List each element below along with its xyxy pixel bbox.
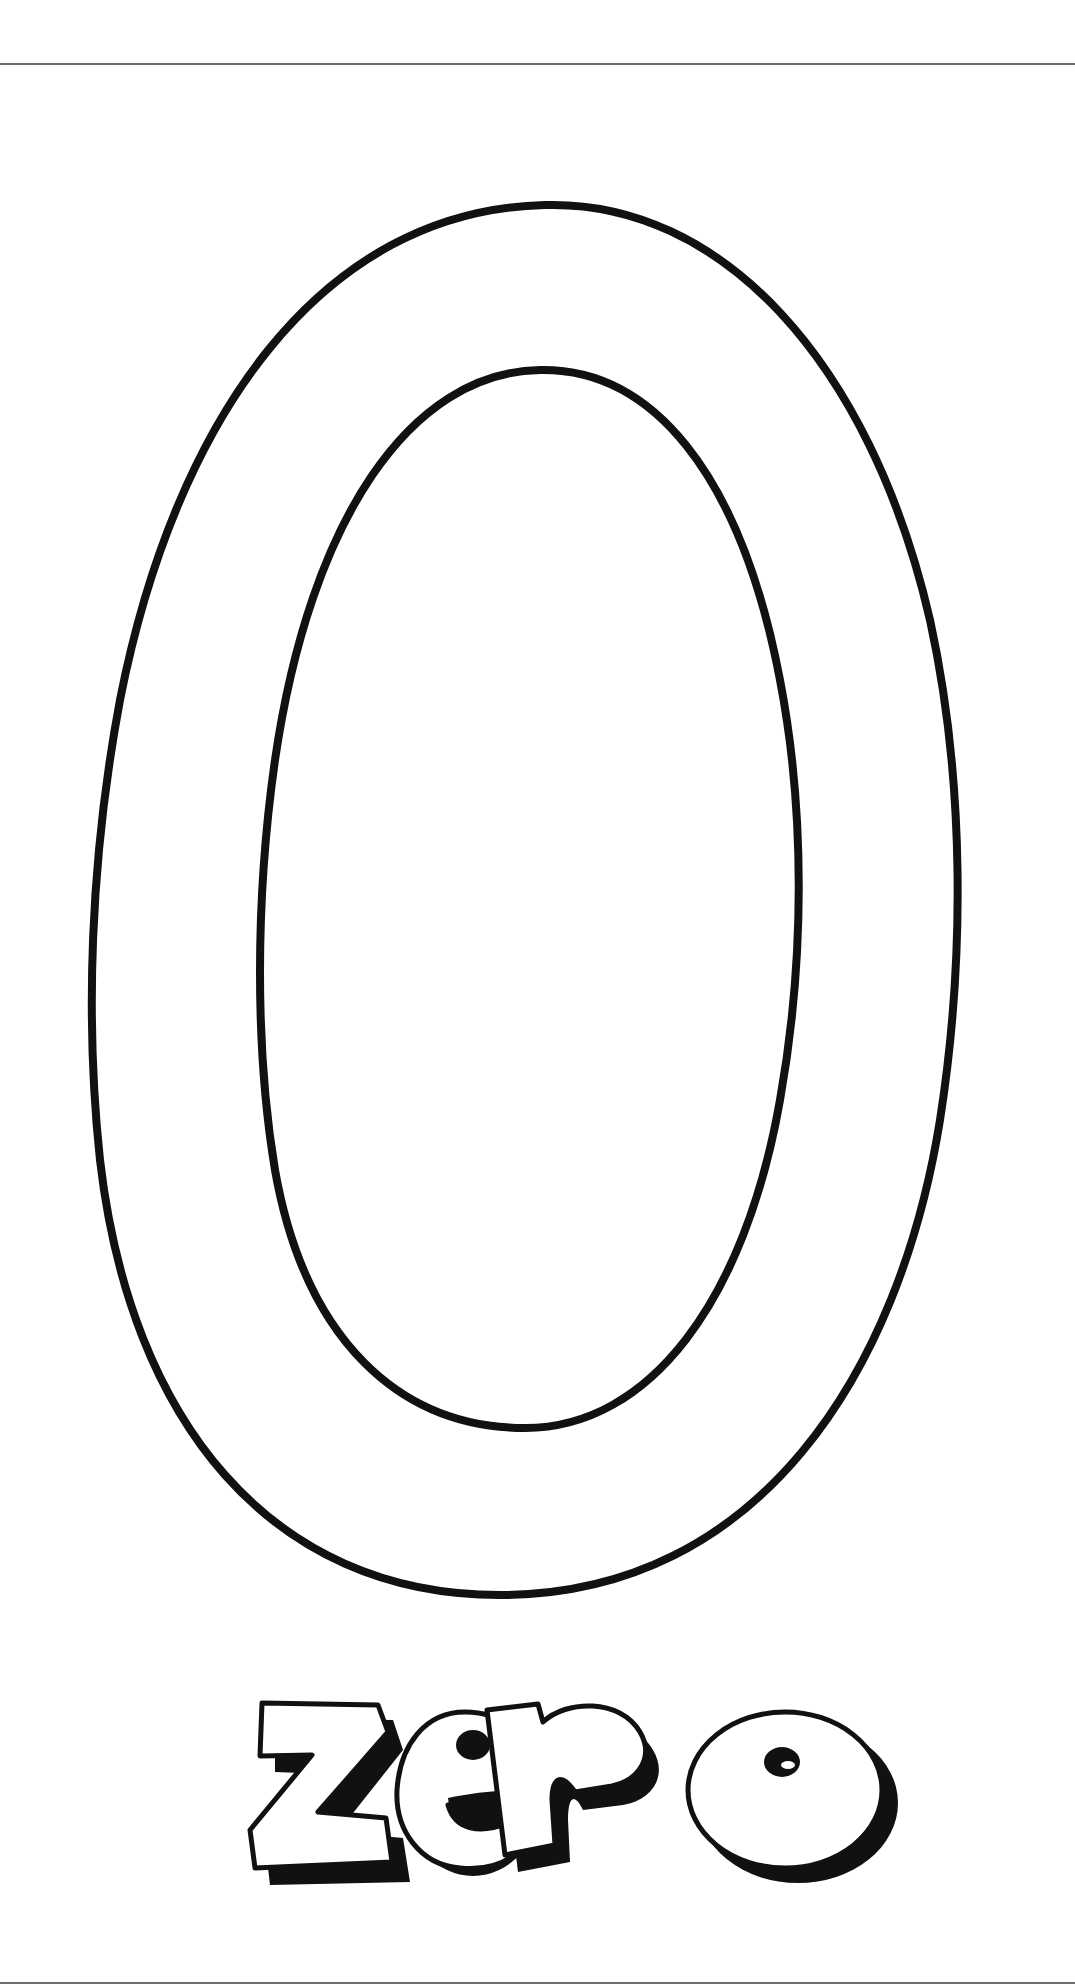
numeral-zero-outline: zero [0, 0, 1075, 1988]
letter-o [688, 1712, 898, 1883]
letter-z [250, 1703, 410, 1885]
letter-r [487, 1704, 659, 1872]
bottom-border-line [0, 1982, 1075, 1984]
numeral-inner-outline [260, 370, 799, 1428]
